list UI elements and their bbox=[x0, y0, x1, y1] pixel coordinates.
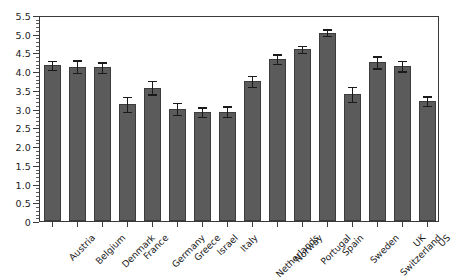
error-bar-cap-lower bbox=[373, 68, 382, 69]
x-axis-ticks bbox=[39, 222, 439, 228]
y-tick-label: 1.5 bbox=[16, 160, 31, 171]
x-tick-label: Sweden bbox=[367, 232, 400, 265]
error-bar-cap-upper bbox=[348, 87, 357, 88]
bar-group[interactable] bbox=[269, 15, 286, 221]
error-bar-cap-lower bbox=[173, 115, 182, 116]
error-bar-cap-lower bbox=[223, 117, 232, 118]
x-tick-label: Germany bbox=[169, 232, 207, 270]
x-tick bbox=[77, 222, 78, 227]
error-bar-line bbox=[102, 62, 103, 72]
y-tick-label: 4.0 bbox=[16, 67, 31, 78]
y-tick-label: 3.5 bbox=[16, 85, 31, 96]
x-tick-label: Italy bbox=[237, 232, 259, 254]
error-bar-line bbox=[127, 97, 128, 112]
x-tick bbox=[127, 222, 128, 227]
y-axis: 00.51.01.52.02.53.03.54.04.55.05.5 bbox=[0, 0, 39, 279]
error-bar-cap-upper bbox=[123, 97, 132, 98]
bar[interactable] bbox=[119, 104, 136, 221]
bar[interactable] bbox=[219, 112, 236, 221]
error-bar-cap-lower bbox=[48, 70, 57, 71]
error-bar-cap-lower bbox=[273, 64, 282, 65]
bar[interactable] bbox=[194, 112, 211, 221]
bar-group[interactable] bbox=[69, 15, 86, 221]
bar-group[interactable] bbox=[419, 15, 436, 221]
bar-group[interactable] bbox=[194, 15, 211, 221]
y-tick-label: 3.0 bbox=[16, 104, 31, 115]
error-bar-cap-upper bbox=[48, 61, 57, 62]
y-tick-label: 5.0 bbox=[16, 29, 31, 40]
bar-group[interactable] bbox=[294, 15, 311, 221]
y-tick-label: 0 bbox=[25, 217, 31, 228]
error-bar-line bbox=[152, 81, 153, 94]
x-tick-label: US bbox=[435, 232, 452, 249]
error-bar-cap-lower bbox=[73, 73, 82, 74]
error-bar-cap-lower bbox=[348, 102, 357, 103]
bar-group[interactable] bbox=[219, 15, 236, 221]
x-tick bbox=[52, 222, 53, 227]
x-tick-label: Greece bbox=[191, 232, 222, 263]
error-bar-cap-lower bbox=[98, 73, 107, 74]
x-tick bbox=[252, 222, 253, 227]
x-tick-label: France bbox=[140, 232, 169, 261]
bar[interactable] bbox=[94, 67, 111, 221]
error-bar-line bbox=[277, 54, 278, 64]
error-bar-line bbox=[252, 76, 253, 87]
bar-group[interactable] bbox=[119, 15, 136, 221]
error-bar-cap-upper bbox=[323, 29, 332, 30]
bar-group[interactable] bbox=[144, 15, 161, 221]
bar[interactable] bbox=[294, 49, 311, 221]
y-tick-label: 5.5 bbox=[16, 11, 31, 22]
bar-group[interactable] bbox=[394, 15, 411, 221]
bar[interactable] bbox=[369, 62, 386, 221]
x-tick bbox=[402, 222, 403, 227]
bar-group[interactable] bbox=[344, 15, 361, 221]
x-tick-label: Norway bbox=[292, 232, 324, 264]
x-tick bbox=[202, 222, 203, 227]
bar-group[interactable] bbox=[169, 15, 186, 221]
error-bar-cap-upper bbox=[198, 107, 207, 108]
x-tick bbox=[227, 222, 228, 227]
bar[interactable] bbox=[244, 81, 261, 221]
bar[interactable] bbox=[69, 67, 86, 221]
error-bar-cap-lower bbox=[123, 112, 132, 113]
bar[interactable] bbox=[44, 65, 61, 221]
bar-chart: 00.51.01.52.02.53.03.54.04.55.05.5 Austr… bbox=[0, 0, 455, 279]
x-tick-label: Belgium bbox=[93, 232, 127, 266]
error-bar-line bbox=[352, 87, 353, 102]
error-bar-cap-upper bbox=[423, 96, 432, 97]
bar-group[interactable] bbox=[369, 15, 386, 221]
error-bar-cap-lower bbox=[148, 94, 157, 95]
error-bar-cap-lower bbox=[198, 117, 207, 118]
error-bar-cap-upper bbox=[223, 106, 232, 107]
error-bar-cap-upper bbox=[73, 60, 82, 61]
bar-group[interactable] bbox=[94, 15, 111, 221]
error-bar-cap-lower bbox=[323, 36, 332, 37]
x-tick-label: UK bbox=[410, 232, 427, 249]
error-bar-line bbox=[227, 106, 228, 116]
error-bar-cap-upper bbox=[173, 103, 182, 104]
bar[interactable] bbox=[269, 59, 286, 221]
y-tick-label: 2.5 bbox=[16, 123, 31, 134]
bar[interactable] bbox=[394, 66, 411, 221]
bar-group[interactable] bbox=[44, 15, 61, 221]
x-tick bbox=[327, 222, 328, 227]
error-bar-line bbox=[202, 107, 203, 117]
error-bar-line bbox=[402, 61, 403, 71]
bars-layer bbox=[40, 17, 438, 221]
bar-group[interactable] bbox=[244, 15, 261, 221]
bar[interactable] bbox=[144, 88, 161, 221]
bar-group[interactable] bbox=[319, 15, 336, 221]
error-bar-line bbox=[177, 103, 178, 115]
error-bar-cap-upper bbox=[98, 62, 107, 63]
bar[interactable] bbox=[419, 101, 436, 221]
bar[interactable] bbox=[169, 109, 186, 221]
bar[interactable] bbox=[319, 33, 336, 221]
x-tick-label: Israel bbox=[214, 232, 240, 258]
error-bar-cap-lower bbox=[298, 53, 307, 54]
error-bar-cap-lower bbox=[423, 106, 432, 107]
x-tick bbox=[102, 222, 103, 227]
bar[interactable] bbox=[344, 94, 361, 221]
error-bar-cap-upper bbox=[248, 76, 257, 77]
x-tick bbox=[302, 222, 303, 227]
x-tick bbox=[177, 222, 178, 227]
